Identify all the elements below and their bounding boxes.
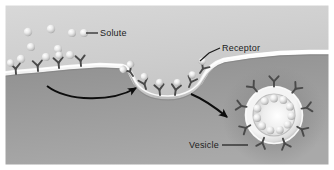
internal-solute xyxy=(261,97,269,105)
internal-solute xyxy=(253,114,261,122)
endocytosis-figure: Solute Receptor Vesicle xyxy=(0,0,334,170)
internal-solute xyxy=(276,126,284,134)
internal-solute xyxy=(288,112,296,120)
internal-solute xyxy=(284,121,292,129)
internal-solute xyxy=(270,95,278,103)
internal-solute xyxy=(254,105,262,113)
internal-solute xyxy=(267,126,275,134)
label-vesicle: Vesicle xyxy=(189,141,219,150)
internal-solute xyxy=(279,96,287,104)
solute-sphere xyxy=(47,25,55,33)
solute-sphere xyxy=(24,28,32,36)
diagram-canvas xyxy=(0,0,334,170)
solute-sphere xyxy=(42,53,50,61)
solute-sphere xyxy=(66,51,74,59)
internal-solute xyxy=(258,122,266,130)
internal-solute xyxy=(286,103,294,111)
label-solute: Solute xyxy=(100,29,127,38)
solute-sphere xyxy=(17,55,25,63)
label-receptor: Receptor xyxy=(222,44,260,53)
solute-sphere xyxy=(27,43,35,51)
solute-sphere xyxy=(68,29,76,37)
